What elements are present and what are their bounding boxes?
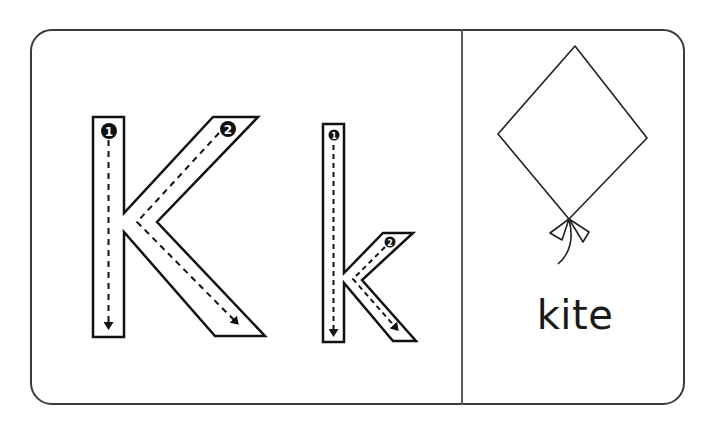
lowercase-k-outline — [323, 124, 416, 342]
kite-bow-right — [569, 219, 589, 242]
kite-body — [498, 46, 647, 219]
kite-bow-left — [550, 219, 569, 240]
uppercase-k-step-2-number: 2 — [224, 123, 232, 137]
uppercase-k-tracing: 1 2 — [93, 117, 265, 337]
uppercase-k-step-1-number: 1 — [105, 125, 113, 139]
lowercase-k-tracing: 1 2 — [323, 124, 416, 342]
uppercase-k-outline — [93, 117, 265, 337]
kite-icon — [498, 46, 647, 264]
lowercase-k-step-2-number: 2 — [387, 239, 393, 248]
picture-word: kite — [520, 292, 630, 338]
lowercase-k-step-1-number: 1 — [331, 132, 337, 141]
